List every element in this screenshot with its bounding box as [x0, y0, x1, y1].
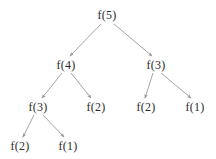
- tree-edge-arrow: [70, 24, 101, 56]
- tree-node-n0: f(5): [93, 8, 121, 22]
- tree-edge-arrow: [23, 115, 34, 137]
- tree-edge-arrow: [42, 73, 62, 98]
- tree-node-n3: f(3): [24, 100, 52, 114]
- recursion-tree-diagram: f(5)f(4)f(3)f(3)f(2)f(2)f(1)f(2)f(1): [0, 0, 216, 159]
- tree-node-n1: f(4): [52, 58, 80, 72]
- tree-edges-layer: [0, 0, 216, 159]
- tree-node-n7: f(2): [6, 139, 34, 153]
- tree-node-n6: f(1): [181, 100, 209, 114]
- tree-node-n4: f(2): [82, 100, 110, 114]
- tree-edge-arrow: [145, 73, 153, 98]
- tree-edge-arrow: [161, 73, 191, 98]
- tree-node-n2: f(3): [142, 58, 170, 72]
- tree-edge-arrow: [114, 24, 152, 56]
- tree-edge-arrow: [71, 73, 91, 98]
- tree-edge-arrow: [43, 115, 64, 137]
- tree-node-n5: f(2): [132, 100, 160, 114]
- tree-node-n8: f(1): [54, 139, 82, 153]
